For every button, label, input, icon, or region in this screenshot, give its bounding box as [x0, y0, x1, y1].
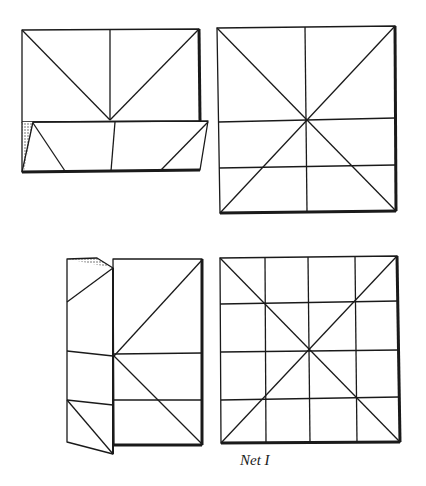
panel-2-unfolded-square [217, 26, 396, 213]
panel-3-folded-rectangle [67, 258, 202, 454]
panel-4-final-net [220, 256, 400, 443]
panel-1-folded-rectangle [22, 29, 208, 172]
net-diagram [0, 0, 426, 486]
figure-caption: Net I [240, 452, 270, 469]
